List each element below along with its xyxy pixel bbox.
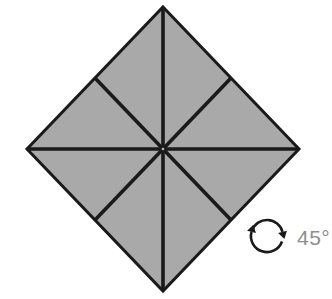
rotate-clockwise-icon	[246, 213, 290, 259]
rotate-arc-top	[252, 220, 283, 232]
rotate-arc-bottom	[251, 232, 282, 252]
diagram-canvas: 45°	[0, 0, 332, 299]
rotation-angle-label: 45°	[297, 226, 330, 250]
center-point	[162, 148, 165, 151]
rotation-legend: 45°	[246, 213, 330, 259]
rotate-arrowhead-right	[278, 231, 287, 239]
